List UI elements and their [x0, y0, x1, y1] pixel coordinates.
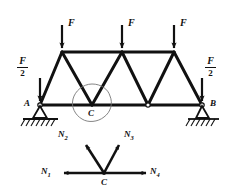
label-reaction-left: F 2: [17, 56, 28, 78]
free-body-diagram-joint-c: [64, 145, 146, 175]
label-force-n1: N1: [41, 167, 51, 178]
fbd-force-n2-arrow: [86, 145, 104, 173]
label-reaction-left-numerator: F: [17, 56, 28, 67]
support-b: [186, 106, 219, 126]
support-b-hatching: [186, 119, 215, 126]
load-arrows-f: [62, 25, 174, 48]
truss-diagram-svg: [0, 0, 230, 192]
support-a-hatching: [21, 119, 55, 126]
label-support-b: B: [210, 99, 216, 108]
support-a: [21, 106, 58, 126]
label-force-n1-sub: 1: [48, 171, 51, 178]
truss-diagonals: [40, 52, 202, 105]
fbd-force-n3-arrow: [104, 145, 119, 173]
label-support-a: A: [24, 99, 30, 108]
label-reaction-right: F 2: [205, 56, 216, 78]
label-reaction-right-denominator: 2: [205, 68, 216, 78]
label-force-n2-sub: 2: [65, 134, 68, 141]
label-force-n3-sub: 3: [131, 134, 134, 141]
joint-d-marker: [146, 103, 150, 107]
label-force-n4: N4: [150, 167, 160, 178]
label-reaction-right-numerator: F: [205, 56, 216, 67]
label-load-f-1: F: [68, 18, 75, 28]
label-force-n2: N2: [58, 130, 68, 141]
label-force-n4-sub: 4: [157, 171, 160, 178]
fbd-joint-c-dot: [102, 171, 106, 175]
label-load-f-3: F: [180, 18, 187, 28]
label-load-f-2: F: [128, 18, 135, 28]
label-joint-c-fbd: C: [101, 178, 107, 187]
figure-root: F F F F 2 F 2 A B C N2 N3 N1 N4 C: [0, 0, 230, 192]
label-force-n3: N3: [124, 130, 134, 141]
label-joint-c-truss: C: [88, 109, 94, 118]
reaction-arrows: [40, 78, 202, 101]
label-reaction-left-denominator: 2: [17, 68, 28, 78]
